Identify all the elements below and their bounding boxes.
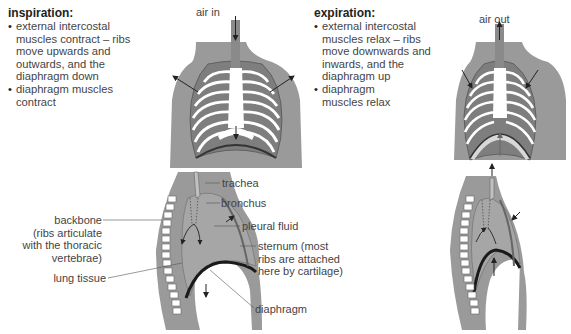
sternum-label: sternum (most ribs are attached here by … (258, 240, 343, 278)
bronchus-label: bronchus (221, 197, 266, 210)
expiration-side-view (450, 164, 527, 330)
text-line: with the thoracic (20, 239, 102, 252)
text-line: sternum (most (258, 240, 343, 253)
lung-tissue-label: lung tissue (30, 272, 106, 285)
inspiration-side-view (156, 172, 262, 330)
text-line: here by cartilage) (258, 265, 343, 278)
expiration-chest-front-view (454, 22, 566, 160)
text-line: ribs are attached (258, 253, 343, 266)
inspiration-chest-front-view (170, 16, 302, 168)
text-line: backbone (20, 214, 102, 227)
trachea-label: trachea (222, 177, 259, 190)
diaphragm-label: diaphragm (255, 303, 307, 316)
text-line: (ribs articulate (20, 227, 102, 240)
pleural-fluid-label: pleural fluid (242, 220, 298, 233)
backbone-label: backbone (ribs articulate with the thora… (20, 214, 102, 264)
text-line: vertebrae) (20, 252, 102, 265)
